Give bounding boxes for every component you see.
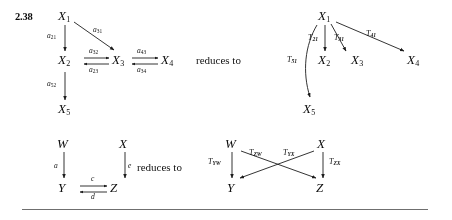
node-w-reduced: W (225, 136, 236, 152)
node-x-reduced: X (317, 136, 325, 152)
textbook-page-fragment: 2.38 X1 X2 X3 X4 X5 a21 a31 a32 a23 (0, 0, 452, 220)
page-divider-rule (22, 209, 428, 210)
edge-label-tzx: TZX (329, 157, 341, 166)
node-z-reduced: Z (316, 180, 323, 196)
edge-label-tzw: TZW (249, 148, 262, 157)
edge-label-tyw: TYW (208, 157, 221, 166)
node-y-reduced: Y (227, 180, 234, 196)
diagram-bottom-right: W X Y Z TYW TZW TYX TZX (0, 0, 452, 220)
edge-label-tyx: TYX (283, 148, 295, 157)
